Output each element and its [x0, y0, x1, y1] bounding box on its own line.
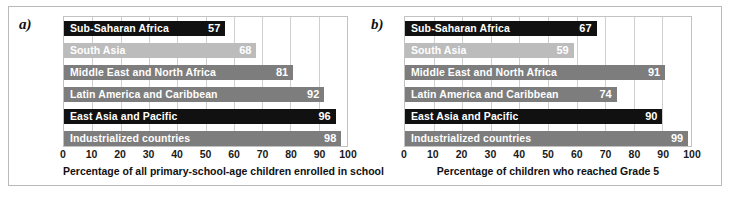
bar: Middle East and North Africa91: [405, 65, 665, 80]
x-tick-label: 20: [456, 148, 468, 160]
x-tick-label: 30: [143, 148, 155, 160]
chart-panel-b: b) Sub-Saharan Africa67South Asia59Middl…: [361, 7, 723, 185]
x-tick-label: 40: [513, 148, 525, 160]
bar: Industrialized countries99: [405, 131, 688, 146]
x-tick-label: 50: [542, 148, 554, 160]
bar-category-label: East Asia and Pacific: [70, 111, 177, 122]
x-tick-label: 10: [86, 148, 98, 160]
bar-row: South Asia68: [64, 43, 347, 58]
bar: Latin America and Caribbean74: [405, 87, 617, 102]
bar-row: Sub-Saharan Africa57: [64, 21, 347, 36]
bar-value-label: 98: [316, 133, 336, 144]
x-tick-label: 70: [257, 148, 269, 160]
chart-panel-a: a) Sub-Saharan Africa57South Asia68Middl…: [9, 7, 361, 185]
bar-row: Sub-Saharan Africa67: [405, 21, 691, 36]
figure-frame: a) Sub-Saharan Africa57South Asia68Middl…: [8, 6, 722, 186]
x-tick-label: 60: [571, 148, 583, 160]
x-tick-label: 70: [600, 148, 612, 160]
x-axis-title-b: Percentage of children who reached Grade…: [404, 165, 692, 177]
x-axis-b: 0102030405060708090100: [404, 148, 692, 164]
bar-category-label: South Asia: [411, 45, 466, 56]
x-tick-label: 10: [427, 148, 439, 160]
x-tick-label: 80: [285, 148, 297, 160]
bar: South Asia59: [405, 43, 574, 58]
x-tick-label: 40: [171, 148, 183, 160]
x-tick-label: 0: [401, 148, 407, 160]
x-tick-label: 100: [339, 148, 357, 160]
bar-row: Industrialized countries99: [405, 131, 691, 146]
bar-value-label: 67: [571, 23, 591, 34]
bar-value-label: 68: [231, 45, 251, 56]
bar: Sub-Saharan Africa57: [64, 21, 225, 36]
bar-row: Latin America and Caribbean74: [405, 87, 691, 102]
panel-a-label: a): [19, 16, 32, 33]
bar-row: Middle East and North Africa81: [64, 65, 347, 80]
bar-value-label: 74: [591, 89, 611, 100]
x-tick-label: 80: [629, 148, 641, 160]
bar: South Asia68: [64, 43, 256, 58]
bar-category-label: Latin America and Caribbean: [70, 89, 218, 100]
bar-category-label: Industrialized countries: [411, 133, 531, 144]
bar-value-label: 59: [548, 45, 568, 56]
x-tick-label: 90: [314, 148, 326, 160]
bar-row: East Asia and Pacific96: [64, 109, 347, 124]
plot-area-a: Sub-Saharan Africa57South Asia68Middle E…: [63, 16, 348, 147]
x-tick-label: 0: [60, 148, 66, 160]
bar-category-label: Middle East and North Africa: [411, 67, 557, 78]
plot-area-b: Sub-Saharan Africa67South Asia59Middle E…: [404, 16, 692, 147]
bar-category-label: South Asia: [70, 45, 125, 56]
bar: Sub-Saharan Africa67: [405, 21, 597, 36]
bar: Middle East and North Africa81: [64, 65, 293, 80]
bar-series-b: Sub-Saharan Africa67South Asia59Middle E…: [405, 17, 691, 146]
bar-series-a: Sub-Saharan Africa57South Asia68Middle E…: [64, 17, 347, 146]
x-tick-label: 60: [228, 148, 240, 160]
bar: Industrialized countries98: [64, 131, 341, 146]
bar-row: Industrialized countries98: [64, 131, 347, 146]
bar: East Asia and Pacific96: [64, 109, 336, 124]
bar-category-label: Latin America and Caribbean: [411, 89, 559, 100]
bar-category-label: Industrialized countries: [70, 133, 190, 144]
x-tick-label: 20: [114, 148, 126, 160]
bar-value-label: 96: [310, 111, 330, 122]
x-tick-label: 50: [200, 148, 212, 160]
bar-row: South Asia59: [405, 43, 691, 58]
bar-category-label: Sub-Saharan Africa: [411, 23, 510, 34]
panel-b-label: b): [371, 16, 384, 33]
x-tick-label: 100: [683, 148, 701, 160]
bar: Latin America and Caribbean92: [64, 87, 324, 102]
bar-row: East Asia and Pacific90: [405, 109, 691, 124]
bar-row: Latin America and Caribbean92: [64, 87, 347, 102]
bar: East Asia and Pacific90: [405, 109, 662, 124]
bar-category-label: East Asia and Pacific: [411, 111, 518, 122]
x-tick-label: 30: [485, 148, 497, 160]
bar-value-label: 90: [637, 111, 657, 122]
x-axis-a: 0102030405060708090100: [63, 148, 348, 164]
bar-value-label: 57: [200, 23, 220, 34]
bar-value-label: 99: [663, 133, 683, 144]
bar-value-label: 92: [299, 89, 319, 100]
bar-category-label: Sub-Saharan Africa: [70, 23, 169, 34]
bar-row: Middle East and North Africa91: [405, 65, 691, 80]
bar-value-label: 81: [268, 67, 288, 78]
x-axis-title-a: Percentage of all primary-school-age chi…: [63, 165, 348, 177]
x-tick-label: 90: [657, 148, 669, 160]
bar-value-label: 91: [640, 67, 660, 78]
bar-category-label: Middle East and North Africa: [70, 67, 216, 78]
